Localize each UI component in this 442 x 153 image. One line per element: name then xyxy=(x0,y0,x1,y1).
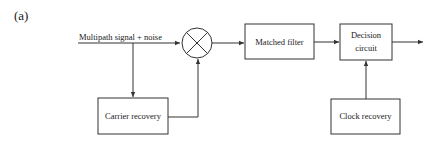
carrier-recovery-label: Carrier recovery xyxy=(105,111,162,121)
carrier-to-mixer xyxy=(168,59,198,117)
clock-recovery-block: Clock recovery xyxy=(331,99,400,134)
carrier-recovery-block: Carrier recovery xyxy=(98,98,168,134)
matched-filter-block: Matched filter xyxy=(245,24,314,59)
input-signal-label: Multipath signal + noise xyxy=(79,32,162,42)
clock-recovery-label: Clock recovery xyxy=(339,111,392,121)
decision-label-line1: Decision xyxy=(351,30,382,40)
block-diagram: Multipath signal + noise Matched filter … xyxy=(0,0,442,153)
decision-circuit-block: Decision circuit xyxy=(340,24,392,60)
decision-label-line2: circuit xyxy=(355,43,377,53)
mixer-block xyxy=(182,28,212,58)
matched-filter-label: Matched filter xyxy=(255,37,304,47)
